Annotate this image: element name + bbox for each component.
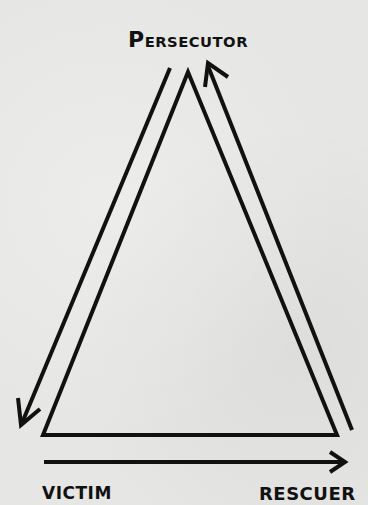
arrow-rescuer-to-persecutor (205, 63, 352, 430)
node-label-persecutor: PERSECUTOR (128, 27, 248, 52)
node-label-victim: VICTIM (42, 483, 112, 503)
persecutor-rest: ERSECUTOR (145, 33, 248, 50)
triangle-shape (43, 72, 337, 435)
arrow-persecutor-to-victim (18, 68, 170, 425)
drama-triangle-diagram (0, 0, 368, 505)
arrow-victim-to-rescuer (44, 452, 346, 472)
persecutor-initial: P (128, 27, 145, 52)
node-label-rescuer: RESCUER (259, 483, 356, 504)
